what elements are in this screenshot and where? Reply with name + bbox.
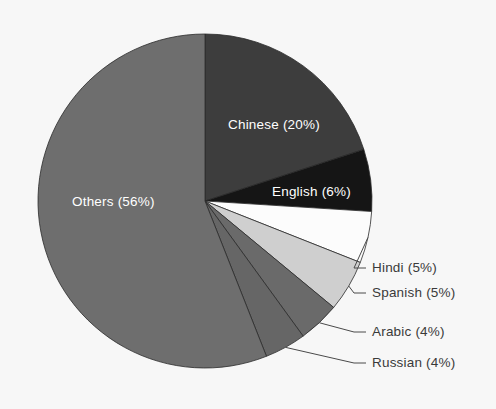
pie-chart-svg: Chinese (20%)English (6%)Hindi (5%)Spani…: [0, 0, 496, 409]
slice-label-arabic: Arabic (4%): [372, 324, 445, 339]
pie-chart-figure: Chinese (20%)English (6%)Hindi (5%)Spani…: [0, 0, 496, 409]
slice-label-hindi: Hindi (5%): [372, 260, 437, 275]
slice-label-chinese: Chinese (20%): [228, 117, 320, 132]
slice-label-russian: Russian (4%): [372, 355, 455, 370]
slice-label-spanish: Spanish (5%): [372, 285, 455, 300]
slice-label-english: English (6%): [272, 184, 351, 199]
slice-label-others: Others (56%): [72, 194, 155, 209]
